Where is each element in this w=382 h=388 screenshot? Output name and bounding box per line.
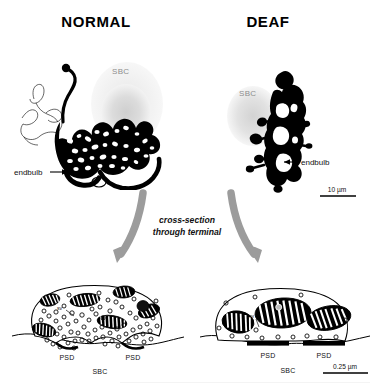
endbulb-label-normal: endbulb [14,168,43,177]
endbulb-label-deaf: endbulb [301,158,330,167]
sbc-label-cross-section-normal: SBC [93,368,108,375]
psd-label-deaf-1: PSD [261,352,276,359]
psd-deaf-2 [303,341,345,346]
sbc-label-cross-section-deaf: SBC [281,367,296,374]
psd-label-normal-2: PSD [126,354,141,361]
axon-terminal-bouton-normal [62,64,70,72]
vesicle-label-deaf: sv [249,313,255,319]
scale-bar-top-label: 10 µm [328,186,347,194]
transition-text-line-2: through terminal [153,227,222,237]
scale-bar-bottom-label: 0.25 µm [333,363,357,371]
psd-label-normal-1: PSD [60,354,75,361]
panel-title-normal: NORMAL [61,13,130,30]
sbc-label-normal: SBC [112,67,129,76]
psd-deaf-1 [247,341,289,346]
sbc-label-deaf: SBC [239,89,256,98]
psd-label-deaf-2: PSD [317,352,332,359]
figure-root: NORMAL DEAF SBC [0,0,382,388]
caption-edge [120,382,370,383]
panel-title-deaf: DEAF [246,13,289,30]
dense-body-normal-1 [137,301,149,312]
transition-text-line-1: cross-section [159,215,215,225]
vesicle-label-normal: sv [57,305,63,311]
